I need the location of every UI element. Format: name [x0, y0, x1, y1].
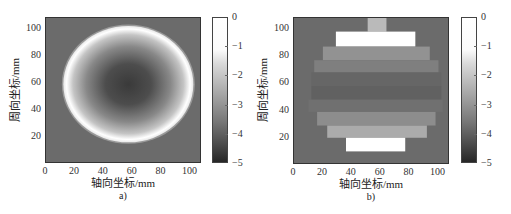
y-tick-label: 60	[267, 77, 289, 87]
colorbar-tick-mark	[225, 105, 228, 106]
colorbar-tick-label: −1	[481, 41, 492, 51]
colorbar-tick-label: −5	[232, 158, 243, 168]
x-tick-label: 20	[317, 167, 327, 177]
y-tick-label: 100	[19, 23, 41, 33]
colorbar-tick-mark	[225, 134, 228, 135]
y-tick-label: 80	[19, 50, 41, 60]
x-tick-label: 0	[291, 167, 296, 177]
colorbar-a	[212, 17, 228, 163]
heatmap-plot-a	[45, 17, 201, 163]
panel-label-b: b)	[367, 191, 375, 202]
y-axis-label-a: 周向坐标/mm	[6, 58, 22, 122]
x-tick-label: 80	[404, 167, 414, 177]
y-axis-label-b: 周向坐标/mm	[254, 58, 270, 122]
band-rect	[323, 47, 430, 61]
y-tick-label: 80	[267, 50, 289, 60]
y-tick-label: 60	[19, 77, 41, 87]
heatmap-plot-b	[293, 17, 449, 164]
y-tick-label: 20	[19, 131, 41, 141]
panel-a: 020406080100100806040200−1−2−3−4−5 轴向坐标/…	[0, 0, 255, 214]
colorbar-tick-mark	[474, 134, 477, 135]
colorbar-tick-label: −1	[232, 41, 243, 51]
x-tick-label: 100	[430, 167, 445, 177]
x-tick-label: 80	[156, 166, 166, 176]
band-rect	[327, 126, 427, 138]
colorbar-tick-mark	[225, 75, 228, 76]
band-rect	[311, 86, 441, 100]
colorbar-tick-label: −3	[232, 100, 243, 110]
panel-label-a: a)	[119, 190, 127, 201]
band-rect	[311, 72, 441, 86]
band-rect	[308, 100, 442, 112]
x-axis-label-a: 轴向坐标/mm	[91, 174, 155, 190]
y-tick-label: 20	[267, 132, 289, 142]
colorbar-tick-label: −4	[481, 129, 492, 139]
x-axis-label-b: 轴向坐标/mm	[339, 175, 403, 191]
colorbar-tick-mark	[225, 46, 228, 47]
colorbar-tick-label: −5	[481, 158, 492, 168]
heatmap-circle-image	[46, 18, 201, 163]
y-tick-label: 40	[19, 104, 41, 114]
band-rect	[314, 60, 438, 72]
x-tick-label: 20	[69, 166, 79, 176]
colorbar-tick-mark	[474, 46, 477, 47]
colorbar-tick-label: −4	[232, 129, 243, 139]
band-rect	[317, 112, 435, 126]
colorbar-tick-mark	[474, 75, 477, 76]
band-rect	[336, 32, 415, 47]
colorbar-tick-label: −3	[481, 100, 492, 110]
colorbar-tick-label: 0	[481, 12, 486, 22]
colorbar-tick-label: 0	[232, 12, 237, 22]
y-tick-label: 40	[267, 105, 289, 115]
band-rect	[346, 138, 405, 152]
heatmap-bands-image	[294, 18, 449, 164]
colorbar-tick-mark	[474, 105, 477, 106]
x-tick-label: 0	[43, 166, 48, 176]
y-tick-label: 100	[267, 23, 289, 33]
colorbar-b	[461, 17, 477, 163]
panel-b: 020406080100100806040200−1−2−3−4−5 轴向坐标/…	[248, 0, 511, 214]
band-rect	[368, 18, 387, 32]
colorbar-tick-label: −2	[481, 70, 492, 80]
colorbar-tick-label: −2	[232, 70, 243, 80]
x-tick-label: 100	[182, 166, 197, 176]
